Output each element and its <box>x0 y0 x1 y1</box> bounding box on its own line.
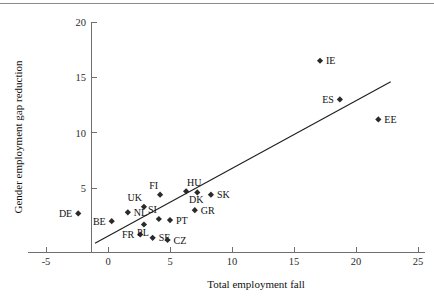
data-point-label: IE <box>326 55 335 66</box>
data-point-marker <box>192 207 198 213</box>
data-point-marker <box>375 116 381 122</box>
data-point-label: SK <box>217 189 231 200</box>
data-point-marker <box>157 192 163 198</box>
y-tick-label: 5 <box>81 183 86 194</box>
x-tick-label: 0 <box>105 256 110 267</box>
data-point-marker <box>337 96 343 102</box>
y-tick-group: 5101520 <box>76 17 97 194</box>
data-point-marker <box>317 58 323 64</box>
data-point-label: EE <box>384 114 396 125</box>
y-tick-label: 10 <box>76 128 87 139</box>
data-point-label: HU <box>187 177 202 188</box>
regression-line <box>95 82 391 244</box>
axes-group <box>28 22 425 253</box>
x-tick-label: -5 <box>42 256 51 267</box>
trend-line-group <box>95 82 391 244</box>
data-point-label: PT <box>176 215 188 226</box>
y-tick-label: 15 <box>76 72 87 83</box>
data-point-label: DE <box>59 208 72 219</box>
x-axis-title: Total employment fall <box>207 278 305 290</box>
data-point-label: ES <box>322 94 334 105</box>
data-point-label: FI <box>149 180 158 191</box>
data-point-label: CZ <box>174 235 187 246</box>
x-tick-group: -50510152025 <box>42 247 424 267</box>
data-point-label: UK <box>128 192 143 203</box>
x-tick-label: 20 <box>351 256 362 267</box>
data-point-label: BE <box>93 216 106 227</box>
data-point-label: FR <box>122 229 135 240</box>
y-tick-label: 20 <box>76 17 87 28</box>
data-point-marker <box>150 235 156 241</box>
scatter-plot-figure: -50510152025 5101520 DEBEFRNLUKPLSECZSIF… <box>0 0 434 297</box>
x-tick-label: 25 <box>413 256 424 267</box>
data-point-marker <box>156 216 162 222</box>
y-axis-title: Gender employment gap reduction <box>12 60 24 214</box>
data-point-marker <box>167 217 173 223</box>
chart-canvas: -50510152025 5101520 DEBEFRNLUKPLSECZSIF… <box>0 0 434 297</box>
data-point-label: PL <box>137 227 149 238</box>
data-point-marker <box>208 192 214 198</box>
data-point-label: SI <box>148 204 157 215</box>
data-points-group: DEBEFRNLUKPLSECZSIFIPTHUDKGRSKIEESEE <box>59 55 397 245</box>
x-tick-label: 10 <box>227 256 238 267</box>
x-tick-label: 15 <box>289 256 300 267</box>
data-point-marker <box>75 210 81 216</box>
data-point-marker <box>109 218 115 224</box>
x-tick-label: 5 <box>167 256 172 267</box>
data-point-marker <box>125 209 131 215</box>
data-point-label: GR <box>201 205 215 216</box>
